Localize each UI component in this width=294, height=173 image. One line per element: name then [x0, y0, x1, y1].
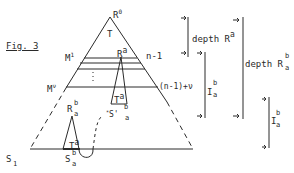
label-iab-upper-sub: a	[213, 92, 217, 99]
label-depth-rab: depth R	[245, 60, 283, 69]
label-n-minus-1: n-1	[146, 52, 162, 61]
label-subtree-ta-sup: a	[119, 92, 124, 101]
figure-caption: Fig. 3	[6, 42, 39, 51]
label-iab-lower-sub: a	[276, 122, 280, 129]
label-node-s-prime: *S'	[106, 108, 119, 119]
label-node-ra: Ra	[117, 46, 127, 59]
label-depth-ra-sup: a	[230, 30, 235, 39]
label-node-sab-sub: a	[72, 161, 76, 168]
label-node-rab: R	[67, 105, 72, 114]
label-mv-sup: ν	[52, 82, 56, 89]
label-node-ra-sup: a	[122, 46, 127, 55]
label-s-prime-sub: a	[125, 115, 129, 122]
label-level-mv: Mν	[47, 81, 56, 94]
connecting-curve-dashed	[93, 117, 101, 149]
label-depth-ra-text: depth R	[192, 34, 230, 44]
label-node-sab: S	[65, 155, 70, 164]
label-node-s1: S	[6, 155, 11, 164]
label-root-sup: 0	[118, 8, 122, 15]
label-n-minus-1-plus-v: (n-1)+ν	[159, 82, 193, 91]
label-depth-ra: depth Ra	[192, 30, 235, 44]
label-iab-lower-sup: b	[276, 110, 280, 117]
diagram-canvas	[0, 0, 294, 173]
label-root: R0	[113, 7, 122, 20]
label-s-prime-sup: b	[124, 104, 128, 111]
connecting-curve	[79, 149, 93, 157]
main-triangle-right-edge-dashed	[167, 102, 193, 149]
label-s-prime-base: S'	[109, 110, 119, 119]
label-node-s1-sub: 1	[13, 161, 17, 168]
label-node-rab-sup: b	[74, 100, 78, 107]
label-iab-upper-sup: b	[213, 80, 217, 87]
label-depth-rab-sup: b	[285, 53, 289, 60]
label-tree: T	[107, 30, 112, 39]
label-iab-upper: I	[207, 88, 212, 97]
label-node-sab-sup: b	[72, 150, 76, 157]
label-subtree-ta-lower-sup: a	[74, 138, 79, 147]
label-depth-rab-sub: a	[285, 65, 289, 72]
label-level-m1: M1	[65, 50, 74, 63]
label-subtree-ta: Ta	[114, 92, 124, 105]
label-m1-sup: 1	[70, 51, 74, 58]
label-node-rab-sub: a	[74, 111, 78, 118]
main-triangle-left-edge-dashed	[30, 88, 66, 149]
